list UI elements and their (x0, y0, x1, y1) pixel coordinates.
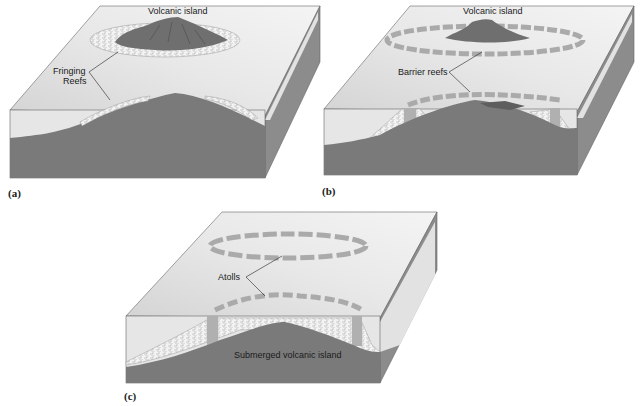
label-fringing: Fringing (53, 66, 86, 76)
coral-reef-formation-diagram: Volcanic island Fringing Reefs (a) Volca… (0, 0, 642, 406)
caption-c: (c) (124, 390, 137, 403)
caption-a: (a) (8, 187, 21, 200)
label-barrier-reefs: Barrier reefs (398, 67, 448, 77)
caption-b: (b) (322, 185, 336, 198)
label-atolls: Atolls (218, 272, 241, 282)
panel-b: Volcanic island Barrier reefs (b) (322, 6, 634, 198)
panel-a: Volcanic island Fringing Reefs (a) (8, 6, 320, 200)
label-volcanic-island: Volcanic island (463, 6, 523, 16)
label-volcanic-island: Volcanic island (148, 6, 208, 16)
label-submerged-volcanic-island: Submerged volcanic island (234, 350, 342, 360)
panel-c: Atolls Submerged volcanic island (c) (124, 212, 437, 403)
label-reefs: Reefs (63, 76, 87, 86)
